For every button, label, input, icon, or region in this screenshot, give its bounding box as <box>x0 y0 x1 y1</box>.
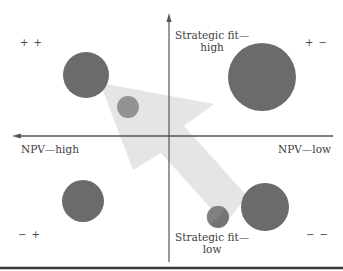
label-strategic-fit-high-line1: Strategic fit— <box>175 29 249 41</box>
label-strategic-fit-low-line2: low <box>175 243 249 255</box>
label-npv-high: NPV—high <box>21 143 79 155</box>
label-strategic-fit-high-line2: high <box>175 41 249 53</box>
label-strategic-fit-high: Strategic fit— high <box>175 29 249 53</box>
bubble-large-top-left <box>63 52 109 98</box>
bubble-small-top-left <box>117 96 139 118</box>
bubble-diagram <box>0 0 343 271</box>
bubble-large-bottom-right <box>241 183 289 231</box>
quadrant-top-left-sign: + + <box>20 37 43 48</box>
bubble-large-bottom-left <box>62 180 104 222</box>
bubble-large-top-right <box>228 43 296 111</box>
quadrant-bottom-right-sign: − − <box>306 229 329 240</box>
label-strategic-fit-low-line1: Strategic fit— <box>175 231 249 243</box>
label-strategic-fit-low: Strategic fit— low <box>175 231 249 255</box>
quadrant-bottom-left-sign: − + <box>18 229 41 240</box>
vertical-axis-arrowhead-icon <box>167 13 172 22</box>
quadrant-top-right-sign: + − <box>305 37 328 48</box>
label-npv-low: NPV—low <box>278 143 331 155</box>
horizontal-axis-arrowhead-icon <box>12 134 21 139</box>
